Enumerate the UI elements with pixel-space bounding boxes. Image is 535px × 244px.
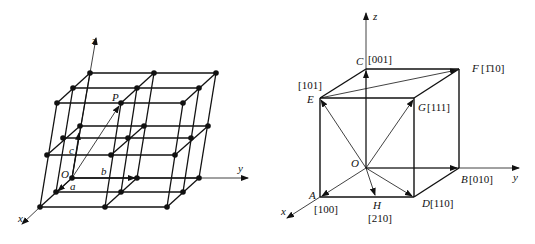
x-axis [22, 207, 40, 224]
label-y-left: y [237, 162, 243, 174]
vector-og [366, 100, 413, 168]
cube-figure [287, 13, 519, 218]
label-point-e: E [306, 93, 314, 105]
direction-vectors [320, 70, 457, 196]
label-index-a: [100] [314, 203, 338, 215]
label-z-right: z [372, 10, 378, 22]
vector-oh [366, 168, 375, 195]
label-x-left: x [17, 212, 23, 224]
label-point-c: C [356, 55, 364, 67]
label-point-f: F [471, 62, 479, 74]
label-index-e: [101] [298, 79, 322, 91]
lattice-points [37, 70, 219, 210]
label-point-d: D [421, 197, 430, 209]
label-index-g: [111] [427, 101, 450, 113]
label-index-h: [210] [368, 212, 392, 224]
label-point-g: G [418, 101, 426, 113]
label-index-b: [010] [469, 173, 493, 185]
label-y-right: y [512, 171, 518, 183]
label-origin-right: O [351, 157, 359, 169]
label-point-a: A [308, 189, 316, 201]
vector-oa [322, 168, 366, 196]
label-b: b [101, 165, 107, 177]
vector-od [366, 168, 412, 196]
label-origin-left: O [61, 168, 69, 180]
label-a: a [70, 180, 76, 192]
label-index-d: [110] [430, 197, 453, 209]
vector-op [72, 106, 119, 178]
label-point-h: H [372, 199, 382, 211]
vector-oe [321, 100, 366, 168]
label-x-right: x [280, 205, 286, 217]
diagram-canvas: z y x O a b c P [0, 0, 535, 244]
label-z-left: z [91, 34, 97, 46]
label-index-f: [1̄10] [481, 62, 504, 74]
cube-edges [320, 69, 459, 197]
label-point-b: B [461, 173, 468, 185]
label-index-c: [001] [368, 53, 392, 65]
label-c: c [69, 144, 74, 156]
label-p: P [111, 91, 119, 103]
lattice-figure [22, 38, 248, 224]
